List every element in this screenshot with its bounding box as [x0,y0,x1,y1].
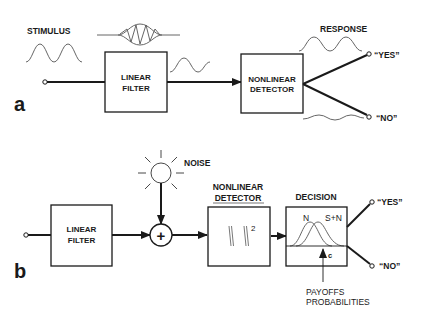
no-terminal-a [367,115,371,119]
stimulus-label: STIMULUS [27,26,71,36]
input-terminal-b [24,233,28,237]
nonlinear-detector-label-line1: NONLINEAR [248,75,296,84]
linear-filter-label-line2: FILTER [122,84,150,93]
nonlinear-detector-box-b [208,207,270,266]
panel-a-label: a [14,93,26,115]
adder-plus-icon: + [157,227,166,244]
yes-branch-b [347,204,370,227]
response-label: RESPONSE [320,24,368,34]
no-output-a: “NO” [376,113,397,123]
signal-detection-diagram: a STIMULUS LINEAR FILTER NONLINEAR DETEC… [0,0,421,317]
yes-output-a: “YES” [374,50,400,60]
yes-branch-a [303,55,367,84]
nonlinear-detector-b-title-line2: DETECTOR [215,193,262,203]
no-branch-a [303,84,367,115]
linear-filter-label-line1: LINEAR [121,73,151,82]
yes-terminal-b [370,200,374,204]
response-waveform [299,37,362,51]
criterion-label: c [328,251,332,260]
no-response-squiggle [303,115,364,120]
nonlinear-detector-b-title-line1: NONLINEAR [213,182,264,192]
panel-b: b NOISE LINEAR FILTER + [14,150,403,307]
linear-filter-box-a [105,52,167,112]
wave-packet-icon [97,24,180,45]
noise-label: NOISE [184,158,211,168]
exponent-label: 2 [251,224,256,233]
no-branch-b [347,246,370,264]
stimulus-waveform [26,44,82,62]
payoffs-label: PAYOFFS [306,287,345,297]
filtered-waveform [170,58,210,72]
no-terminal-b [370,264,374,268]
panel-a: a STIMULUS LINEAR FILTER NONLINEAR DETEC… [14,24,400,123]
nonlinear-detector-label-line2: DETECTOR [250,85,294,94]
no-output-b: “NO” [379,261,400,271]
decision-title: DECISION [295,192,336,202]
yes-output-b: “YES” [377,197,403,207]
input-terminal [43,80,47,84]
panel-b-label: b [14,260,26,282]
noise-dist-label: N [303,213,309,223]
yes-terminal-a [367,52,371,56]
signal-noise-dist-label: S+N [325,213,342,223]
probabilities-label: PROBABILITIES [306,297,370,307]
linear-filter-b-label-line2: FILTER [68,236,96,245]
linear-filter-b-label-line1: LINEAR [67,225,97,234]
